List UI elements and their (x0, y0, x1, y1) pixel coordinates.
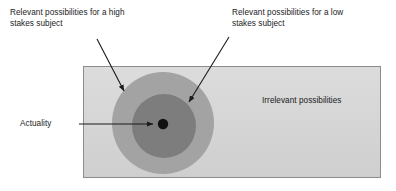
actuality-label: Actuality (20, 119, 80, 130)
irrelevant-possibilities-label: Irrelevant possibilities (262, 96, 378, 107)
high-stakes-label: Relevant possibilities for a high stakes… (10, 8, 160, 29)
actuality-dot (158, 119, 168, 129)
low-stakes-label: Relevant possibilities for a low stakes … (232, 8, 384, 29)
diagram-canvas: Relevant possibilities for a high stakes… (0, 0, 396, 191)
